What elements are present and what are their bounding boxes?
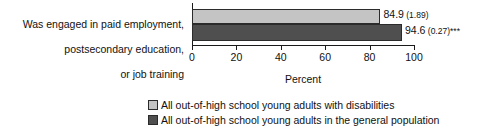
data-label-stars-dark: ***: [450, 26, 460, 36]
bar-with-disabilities: [192, 9, 380, 24]
x-tick-label-40: 40: [275, 51, 287, 63]
data-label-with-disabilities: 84.9 (1.89): [383, 9, 428, 21]
x-tick-label-80: 80: [364, 51, 376, 63]
data-label-value-dark: 94.6: [405, 24, 425, 36]
legend-swatch-dark-icon: [148, 115, 158, 125]
legend-item-general-population: All out-of-high school young adults in t…: [148, 112, 439, 127]
legend-item-with-disabilities: All out-of-high school young adults with…: [148, 97, 439, 112]
category-axis-label: Was engaged in paid employment, postseco…: [4, 5, 184, 93]
category-label-line-2: postsecondary education,: [4, 43, 184, 56]
x-axis-title: Percent: [192, 73, 414, 85]
plot-area: [192, 4, 414, 45]
legend-swatch-light-icon: [148, 100, 158, 110]
data-label-general-population: 94.6 (0.27)***: [405, 25, 460, 37]
data-label-se-light: (1.89): [404, 10, 429, 20]
legend-label-with-disabilities: All out-of-high school young adults with…: [161, 99, 394, 111]
category-label-line-1: Was engaged in paid employment,: [4, 18, 184, 31]
bar-chart: Was engaged in paid employment, postseco…: [0, 0, 489, 138]
x-tick-label-100: 100: [405, 51, 423, 63]
x-tick-label-20: 20: [231, 51, 243, 63]
data-label-value-light: 84.9: [383, 8, 403, 20]
x-tick-mark-20: [236, 46, 237, 50]
bar-general-population: [192, 24, 402, 41]
category-label-line-3: or job training: [4, 68, 184, 81]
x-axis-line: [192, 45, 415, 46]
x-tick-mark-80: [370, 46, 371, 50]
x-tick-mark-40: [281, 46, 282, 50]
legend-label-general-population: All out-of-high school young adults in t…: [161, 114, 439, 126]
x-tick-mark-60: [325, 46, 326, 50]
x-tick-mark-0: [192, 46, 193, 50]
data-label-se-dark: (0.27): [425, 26, 450, 36]
x-tick-label-60: 60: [319, 51, 331, 63]
x-tick-label-0: 0: [189, 51, 195, 63]
x-tick-mark-100: [414, 46, 415, 50]
chart-legend: All out-of-high school young adults with…: [148, 97, 439, 127]
